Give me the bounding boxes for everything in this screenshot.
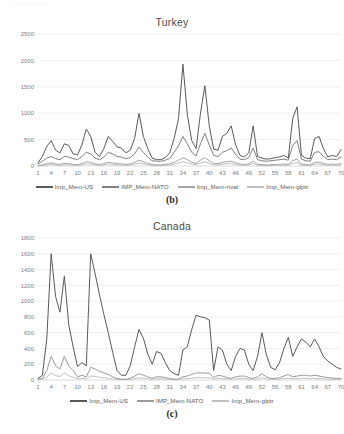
x-tick-label: 55 <box>272 170 279 176</box>
y-tick-label: 800 <box>24 314 35 320</box>
x-tick-label: 61 <box>298 384 305 390</box>
x-tick-label: 13 <box>87 384 94 390</box>
legend-swatch <box>102 186 119 188</box>
x-tick-label: 58 <box>285 384 292 390</box>
scan-artifact-text: - - -- -- -- --- --- <box>6 1 50 7</box>
legend-swatch <box>70 400 87 402</box>
legend-item[interactable]: IMP_Mem-NATO <box>102 183 168 190</box>
x-tick-label: 49 <box>245 170 252 176</box>
legend-swatch <box>247 186 264 188</box>
x-tick-label: 22 <box>127 384 134 390</box>
x-tick-label: 49 <box>245 384 252 390</box>
y-tick-label: 2000 <box>21 58 35 64</box>
legend-label: Imp_Mem-US <box>89 397 128 404</box>
x-tick-label: 55 <box>272 384 279 390</box>
x-tick-label: 4 <box>50 384 54 390</box>
x-tick-label: 40 <box>206 384 213 390</box>
legend-swatch <box>178 186 195 188</box>
x-tick-label: 19 <box>114 170 121 176</box>
x-tick-label: 31 <box>166 384 173 390</box>
x-tick-label: 67 <box>324 384 331 390</box>
x-tick-label: 25 <box>140 170 147 176</box>
chart-title-turkey: Turkey <box>0 16 344 28</box>
x-tick-label: 46 <box>232 384 239 390</box>
legend-swatch <box>36 186 53 188</box>
y-tick-label: 1800 <box>21 235 35 241</box>
subfigure-label-c: (c) <box>0 408 344 419</box>
x-tick-label: 19 <box>114 384 121 390</box>
legend-swatch <box>137 400 154 402</box>
x-tick-label: 1 <box>36 170 40 176</box>
x-tick-label: 28 <box>153 384 160 390</box>
legend-item[interactable]: Imp_Mem-glptr <box>212 397 273 404</box>
chart-svg-turkey: 0500100015002000250014710131619222528313… <box>0 30 344 180</box>
plot-area-turkey: 0500100015002000250014710131619222528313… <box>0 30 344 180</box>
x-tick-label: 43 <box>219 384 226 390</box>
x-tick-label: 34 <box>180 384 187 390</box>
figure-turkey: Turkey 050010001500200025001471013161922… <box>0 16 344 216</box>
legend-turkey: Imp_Mem-USIMP_Mem-NATOImp_Mem-rivalImp_M… <box>0 183 344 190</box>
x-tick-label: 16 <box>101 170 108 176</box>
x-tick-label: 70 <box>338 170 344 176</box>
y-tick-label: 1000 <box>21 298 35 304</box>
x-tick-label: 58 <box>285 170 292 176</box>
y-tick-label: 1400 <box>21 267 35 273</box>
legend-item[interactable]: Imp_Mem-glptr <box>247 183 308 190</box>
x-tick-label: 46 <box>232 170 239 176</box>
legend-item[interactable]: Imp_Mem-US <box>36 183 94 190</box>
legend-item[interactable]: IMP_Mem-NATO <box>137 397 203 404</box>
plot-area-canada: 0200400600800100012001400160018001471013… <box>0 234 344 394</box>
x-tick-label: 40 <box>206 170 213 176</box>
x-tick-label: 7 <box>63 384 67 390</box>
y-tick-label: 0 <box>31 163 35 169</box>
chart-title-canada: Canada <box>0 220 344 232</box>
series-line <box>38 162 341 166</box>
x-tick-label: 22 <box>127 170 134 176</box>
x-tick-label: 4 <box>50 170 54 176</box>
x-tick-label: 67 <box>324 170 331 176</box>
y-tick-label: 200 <box>24 361 35 367</box>
x-tick-label: 64 <box>311 384 318 390</box>
y-tick-label: 0 <box>31 377 35 383</box>
x-tick-label: 13 <box>87 170 94 176</box>
x-tick-label: 52 <box>259 384 266 390</box>
y-tick-label: 1600 <box>21 251 35 257</box>
y-tick-label: 600 <box>24 330 35 336</box>
x-tick-label: 10 <box>74 384 81 390</box>
x-tick-label: 37 <box>193 170 200 176</box>
x-tick-label: 61 <box>298 170 305 176</box>
x-tick-label: 64 <box>311 170 318 176</box>
chart-svg-canada: 0200400600800100012001400160018001471013… <box>0 234 344 394</box>
x-tick-label: 25 <box>140 384 147 390</box>
y-tick-label: 1500 <box>21 84 35 90</box>
x-tick-label: 34 <box>180 170 187 176</box>
x-tick-label: 28 <box>153 170 160 176</box>
x-tick-label: 70 <box>338 384 344 390</box>
series-line <box>38 254 341 379</box>
y-tick-label: 500 <box>24 137 35 143</box>
y-tick-label: 1000 <box>21 110 35 116</box>
legend-label: Imp_Mem-glptr <box>231 397 273 404</box>
y-tick-label: 1200 <box>21 283 35 289</box>
x-tick-label: 31 <box>166 170 173 176</box>
legend-item[interactable]: Imp_Mem-rival <box>178 183 239 190</box>
figure-page: - - -- -- -- --- --- Turkey 050010001500… <box>0 0 344 434</box>
y-tick-label: 400 <box>24 346 35 352</box>
x-tick-label: 52 <box>259 170 266 176</box>
subfigure-label-b: (b) <box>0 194 344 205</box>
x-tick-label: 37 <box>193 384 200 390</box>
x-tick-label: 1 <box>36 384 40 390</box>
legend-canada: Imp_Mem-USIMP_Mem-NATOImp_Mem-glptr <box>0 397 344 404</box>
x-tick-label: 43 <box>219 170 226 176</box>
legend-label: Imp_Mem-rival <box>197 183 239 190</box>
legend-label: IMP_Mem-NATO <box>121 183 168 190</box>
legend-label: Imp_Mem-glptr <box>266 183 308 190</box>
x-tick-label: 16 <box>101 384 108 390</box>
series-line <box>38 356 341 379</box>
legend-label: Imp_Mem-US <box>55 183 94 190</box>
x-tick-label: 10 <box>74 170 81 176</box>
legend-swatch <box>212 400 229 402</box>
figure-canada: Canada 020040060080010001200140016001800… <box>0 220 344 434</box>
legend-label: IMP_Mem-NATO <box>156 397 203 404</box>
legend-item[interactable]: Imp_Mem-US <box>70 397 128 404</box>
